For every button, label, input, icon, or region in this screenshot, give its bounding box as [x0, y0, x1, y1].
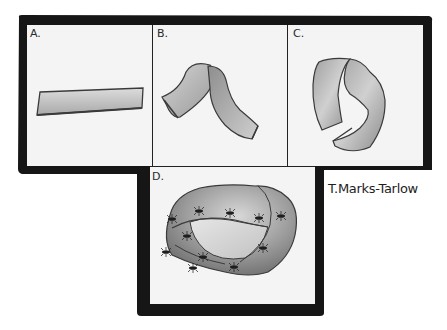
panel-a-label: A.: [30, 27, 41, 40]
artist-signature: T.Marks-Tarlow: [328, 181, 418, 196]
panel-d-label: D.: [152, 170, 164, 183]
panel-c-label: C.: [293, 27, 304, 40]
panel-b-label: B.: [157, 27, 168, 40]
illustration-canvas: [0, 0, 447, 330]
mobius-illustration: A. B. C. D. T.Marks-Tarlow: [0, 0, 447, 330]
